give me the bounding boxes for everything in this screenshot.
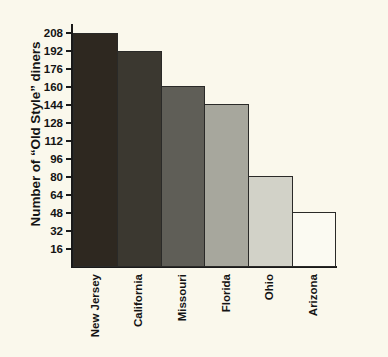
x-tick-label-slot: Florida xyxy=(204,270,248,357)
y-tick-label: 176 xyxy=(44,62,63,76)
y-axis-ticks: 163248648096112128144160176192208 xyxy=(0,0,73,357)
bar xyxy=(73,33,118,267)
bar xyxy=(117,51,162,267)
x-tick-label-slot: California xyxy=(117,270,161,357)
y-tick: 80 xyxy=(50,170,73,184)
y-tick: 16 xyxy=(50,242,73,256)
y-tick-label: 128 xyxy=(44,116,63,130)
y-tick: 64 xyxy=(50,188,73,202)
y-tick: 32 xyxy=(50,224,73,238)
x-tick-label: Ohio xyxy=(263,274,275,300)
y-tick-label: 64 xyxy=(50,188,63,202)
x-tick-label: New Jersey xyxy=(89,274,101,337)
y-tick: 208 xyxy=(44,26,73,40)
x-tick-label-slot: New Jersey xyxy=(73,270,117,357)
x-axis-labels: New JerseyCaliforniaMissouriFloridaOhioA… xyxy=(73,270,335,357)
y-tick-label: 96 xyxy=(50,152,63,166)
x-tick-label: Arizona xyxy=(307,274,319,316)
x-tick-label-slot: Arizona xyxy=(291,270,335,357)
bar xyxy=(291,212,336,267)
y-tick: 160 xyxy=(44,80,73,94)
y-tick: 96 xyxy=(50,152,73,166)
y-tick-label: 16 xyxy=(50,242,63,256)
y-tick-label: 144 xyxy=(44,98,63,112)
x-tick-label: Missouri xyxy=(176,274,188,321)
x-tick-label-slot: Missouri xyxy=(160,270,204,357)
x-tick-label-slot: Ohio xyxy=(248,270,292,357)
y-tick-label: 80 xyxy=(50,170,63,184)
y-tick: 176 xyxy=(44,62,73,76)
bar xyxy=(248,176,293,267)
x-tick-label: Florida xyxy=(220,274,232,312)
y-tick-label: 192 xyxy=(44,44,63,58)
y-tick: 112 xyxy=(44,134,73,148)
y-tick: 48 xyxy=(50,206,73,220)
y-tick: 144 xyxy=(44,98,73,112)
bar-chart: Number of “Old Style” diners 16324864809… xyxy=(0,0,388,357)
bar xyxy=(204,104,249,267)
y-tick-label: 208 xyxy=(44,26,63,40)
y-tick-label: 48 xyxy=(50,206,63,220)
y-tick: 128 xyxy=(44,116,73,130)
y-tick-label: 32 xyxy=(50,224,63,238)
plot-area xyxy=(73,24,335,267)
y-tick: 192 xyxy=(44,44,73,58)
bar xyxy=(160,86,205,267)
x-tick-label: California xyxy=(132,274,144,327)
y-tick-label: 160 xyxy=(44,80,63,94)
y-tick-label: 112 xyxy=(44,134,63,148)
